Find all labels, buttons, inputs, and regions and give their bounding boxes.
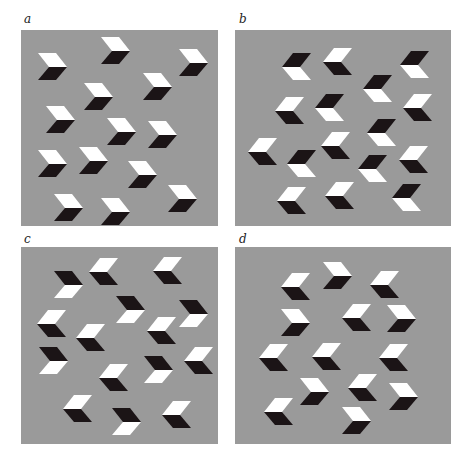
chevron-lower-parallelogram (399, 160, 428, 173)
chevron-upper-parallelogram (323, 48, 352, 62)
chevron-left-white-top (259, 344, 288, 371)
chevron-layer (235, 30, 451, 226)
chevron-upper-parallelogram (179, 49, 208, 63)
chevron-left-white-top (153, 257, 182, 284)
chevron-upper-parallelogram (259, 344, 288, 358)
chevron-lower-parallelogram (79, 161, 108, 174)
chevron-upper-parallelogram (168, 185, 197, 199)
chevron-lower-parallelogram (76, 338, 105, 351)
chevron-lower-parallelogram (392, 198, 421, 211)
chevron-lower-parallelogram (367, 133, 396, 146)
chevron-right-white-top (389, 383, 418, 410)
chevron-lower-parallelogram (54, 208, 83, 221)
chevron-lower-parallelogram (148, 135, 177, 148)
chevron-lower-parallelogram (358, 169, 387, 182)
chevron-left-white-top (37, 310, 66, 337)
chevron-upper-parallelogram (99, 364, 128, 378)
chevron-lower-parallelogram (143, 87, 172, 100)
chevron-lower-parallelogram (84, 97, 113, 110)
chevron-upper-parallelogram (342, 407, 371, 421)
chevron-right-black-top (112, 408, 141, 435)
chevron-upper-parallelogram (321, 132, 350, 146)
chevron-lower-parallelogram (389, 397, 418, 410)
chevron-left-black-top (363, 75, 392, 102)
chevron-left-white-top (63, 395, 92, 422)
chevron-left-white-top (323, 48, 352, 75)
chevron-upper-parallelogram (248, 138, 277, 152)
chevron-lower-parallelogram (101, 51, 130, 64)
chevron-upper-parallelogram (128, 161, 157, 175)
chevron-left-black-top (315, 94, 344, 121)
chevron-lower-parallelogram (315, 108, 344, 121)
chevron-right-white-top (38, 150, 67, 177)
chevron-lower-parallelogram (144, 370, 173, 383)
chevron-lower-parallelogram (348, 388, 377, 401)
chevron-upper-parallelogram (387, 305, 416, 319)
chevron-left-white-top (275, 97, 304, 124)
chevron-upper-parallelogram (143, 73, 172, 87)
panel-a (21, 30, 218, 226)
chevron-left-white-top (89, 258, 118, 285)
chevron-lower-parallelogram (54, 285, 83, 298)
chevron-left-white-top (312, 343, 341, 370)
chevron-lower-parallelogram (342, 421, 371, 434)
chevron-lower-parallelogram (248, 152, 277, 165)
chevron-upper-parallelogram (399, 146, 428, 160)
chevron-upper-parallelogram (389, 383, 418, 397)
chevron-right-white-top (46, 106, 75, 133)
chevron-right-white-top (84, 83, 113, 110)
chevron-upper-parallelogram (37, 310, 66, 324)
chevron-lower-parallelogram (287, 164, 316, 177)
chevron-upper-parallelogram (63, 395, 92, 409)
chevron-lower-parallelogram (370, 285, 399, 298)
chevron-upper-parallelogram (79, 147, 108, 161)
panel-c (21, 247, 218, 444)
chevron-upper-parallelogram (264, 398, 293, 412)
chevron-lower-parallelogram (363, 89, 392, 102)
chevron-upper-parallelogram (101, 37, 130, 51)
chevron-right-black-top (39, 347, 68, 374)
chevron-upper-parallelogram (101, 198, 130, 212)
chevron-upper-parallelogram (277, 187, 306, 201)
chevron-lower-parallelogram (282, 67, 311, 80)
chevron-lower-parallelogram (281, 323, 310, 336)
chevron-left-black-top (392, 184, 421, 211)
chevron-left-white-top (325, 182, 354, 209)
chevron-lower-parallelogram (325, 196, 354, 209)
chevron-lower-parallelogram (259, 358, 288, 371)
chevron-lower-parallelogram (46, 120, 75, 133)
chevron-right-white-top (107, 118, 136, 145)
chevron-upper-parallelogram (300, 378, 329, 392)
chevron-lower-parallelogram (379, 358, 408, 371)
chevron-lower-parallelogram (112, 422, 141, 435)
chevron-upper-parallelogram (54, 194, 83, 208)
chevron-right-white-top (281, 309, 310, 336)
chevron-left-white-top (348, 374, 377, 401)
chevron-lower-parallelogram (162, 415, 191, 428)
chevron-left-black-top (358, 155, 387, 182)
chevron-upper-parallelogram (46, 106, 75, 120)
chevron-lower-parallelogram (300, 392, 329, 405)
chevron-lower-parallelogram (403, 108, 432, 121)
chevron-upper-parallelogram (112, 408, 141, 422)
chevron-upper-parallelogram (38, 150, 67, 164)
chevron-left-white-top (184, 347, 213, 374)
chevron-lower-parallelogram (168, 199, 197, 212)
chevron-lower-parallelogram (281, 287, 310, 300)
chevron-upper-parallelogram (107, 118, 136, 132)
chevron-upper-parallelogram (370, 271, 399, 285)
chevron-upper-parallelogram (379, 344, 408, 358)
chevron-right-white-top (168, 185, 197, 212)
chevron-right-white-top (300, 378, 329, 405)
panel-label-c: c (24, 233, 31, 245)
chevron-left-white-top (76, 324, 105, 351)
chevron-right-white-top (101, 198, 130, 225)
chevron-left-white-top (379, 344, 408, 371)
chevron-left-black-top (400, 51, 429, 78)
chevron-upper-parallelogram (287, 150, 316, 164)
chevron-lower-parallelogram (101, 212, 130, 225)
chevron-right-white-top (148, 121, 177, 148)
chevron-upper-parallelogram (184, 347, 213, 361)
chevron-lower-parallelogram (38, 164, 67, 177)
chevron-right-white-top (387, 305, 416, 332)
